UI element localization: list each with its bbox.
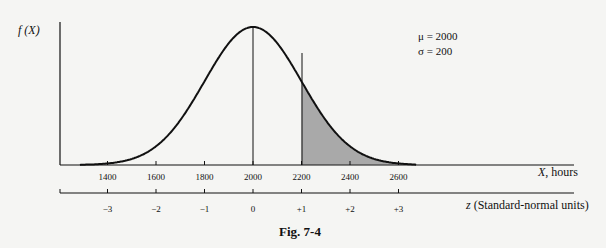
z-tick-label: −2 bbox=[151, 204, 161, 214]
x-tick-label: 2600 bbox=[390, 172, 409, 182]
normal-curve bbox=[80, 27, 416, 165]
z-tick-label: +1 bbox=[297, 204, 307, 214]
mu-annotation: μ = 2000 bbox=[418, 30, 458, 42]
sigma-annotation: σ = 200 bbox=[418, 45, 453, 57]
x-tick-label: 2200 bbox=[293, 172, 312, 182]
x-axis-label: X, hours bbox=[537, 165, 578, 179]
z-tick-label: −1 bbox=[200, 204, 210, 214]
z-tick-label: +2 bbox=[345, 204, 355, 214]
z-axis-label: z (Standard-normal units) bbox=[465, 198, 589, 212]
x-tick-label: 1400 bbox=[99, 172, 118, 182]
z-tick-label: −3 bbox=[103, 204, 113, 214]
z-tick-label: +3 bbox=[394, 204, 404, 214]
normal-distribution-chart: 1400160018002000220024002600 −3−2−10+1+2… bbox=[0, 0, 606, 248]
x-tick-label: 2000 bbox=[244, 172, 263, 182]
y-axis-label: f (X) bbox=[18, 23, 40, 37]
x-tick-label: 1600 bbox=[147, 172, 166, 182]
x-tick-label: 1800 bbox=[196, 172, 215, 182]
z-tick-label: 0 bbox=[251, 204, 256, 214]
x-tick-label: 2400 bbox=[341, 172, 360, 182]
figure-caption: Fig. 7-4 bbox=[279, 224, 321, 239]
